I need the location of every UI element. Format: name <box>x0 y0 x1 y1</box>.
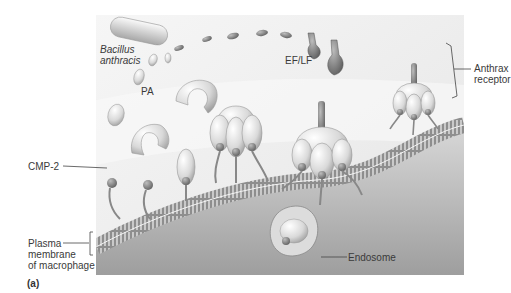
panel-tag: (a) <box>27 278 39 289</box>
anthrax-receptor-bracket <box>446 43 457 98</box>
label-endosome: Endosome <box>348 252 396 263</box>
label-cmp2: CMP-2 <box>28 161 59 172</box>
label-bacillus-anthracis: Bacillus anthracis <box>100 44 141 66</box>
label-plasma-membrane: Plasma membrane of macrophage <box>28 238 95 271</box>
label-ef-lf: EF/LF <box>285 55 312 66</box>
label-anthrax-receptor: Anthrax receptor <box>474 63 511 85</box>
label-pa: PA <box>141 86 154 97</box>
cmp2-leader <box>63 166 107 168</box>
